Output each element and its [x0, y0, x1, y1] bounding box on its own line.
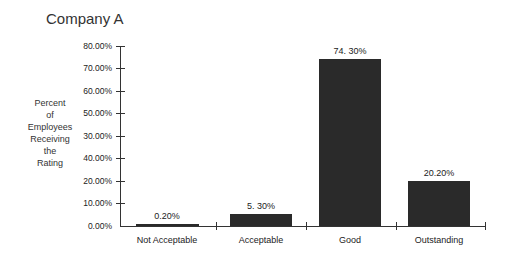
y-tick-label: 30.00%	[52, 131, 112, 141]
y-tick-label: 60.00%	[52, 86, 112, 96]
x-category-label: Not Acceptable	[117, 235, 217, 245]
y-tick	[116, 68, 125, 69]
bar-not-acceptable	[136, 224, 199, 226]
bar-outstanding	[408, 181, 470, 226]
bar-good	[319, 59, 381, 226]
x-category-label: Outstanding	[389, 235, 489, 245]
y-tick	[116, 136, 125, 137]
bar-value-label: 0.20%	[127, 211, 207, 221]
plot-area: 80.00% 70.00% 60.00% 50.00% 30.00% 40.00…	[0, 0, 512, 259]
bar-value-label: 74. 30%	[310, 46, 390, 56]
x-category-label: Good	[300, 235, 400, 245]
y-tick	[116, 91, 125, 92]
y-tick-label: 70.00%	[52, 63, 112, 73]
x-category-label: Acceptable	[211, 235, 311, 245]
y-tick	[116, 46, 125, 47]
y-tick	[116, 113, 125, 114]
bar-value-label: 5. 30%	[221, 201, 301, 211]
x-tick	[396, 222, 397, 230]
x-tick	[306, 222, 307, 230]
x-axis-line	[120, 226, 486, 227]
y-tick-label: 50.00%	[52, 108, 112, 118]
y-tick	[116, 158, 125, 159]
x-tick	[216, 222, 217, 230]
y-tick	[116, 181, 125, 182]
bar-acceptable	[230, 214, 292, 226]
x-tick	[485, 222, 486, 230]
y-tick-label: 40.00%	[52, 153, 112, 163]
y-tick-label: 0.00%	[52, 221, 112, 231]
y-tick	[116, 203, 125, 204]
y-tick-label: 10.00%	[52, 198, 112, 208]
y-tick-label: 80.00%	[52, 41, 112, 51]
y-tick-label: 20.00%	[52, 176, 112, 186]
bar-value-label: 20.20%	[399, 168, 479, 178]
